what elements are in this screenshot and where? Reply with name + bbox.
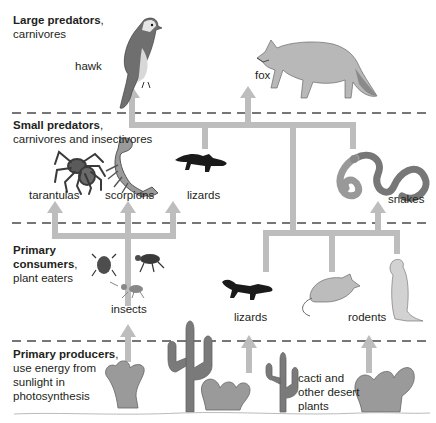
level-label-large-predators: Large predators, carnivores (13, 13, 104, 41)
label-snakes: snakes (388, 193, 424, 206)
level-label-primary-producers: Primary producers, use energy from sunli… (13, 347, 118, 403)
tarantula-illustration (55, 152, 105, 194)
label-rodents: rodents (348, 311, 386, 324)
lizard-consumer-illustration (222, 280, 273, 300)
label-insects: insects (111, 303, 147, 316)
label-tarantulas: tarantulas (29, 189, 80, 202)
food-web-diagram: Large predators, carnivores Small predat… (0, 0, 436, 423)
level-desc: carnivores (13, 28, 66, 40)
label-desert-plants: cacti and other desert plants (298, 371, 359, 413)
lizard-small-predator-illustration (175, 154, 227, 172)
level-title-line2: consumers (13, 258, 74, 270)
label-lizards-consumers: lizards (234, 311, 267, 324)
level-label-small-predators: Small predators, carnivores and insectiv… (13, 118, 152, 146)
level-title: Primary producers (13, 348, 115, 360)
level-label-primary-consumers: Primary consumers, plant eaters (13, 243, 78, 285)
label-lizards-small-predators: lizards (187, 189, 220, 202)
fox-illustration (257, 40, 377, 98)
snake-illustration (340, 155, 426, 198)
ground-line (14, 413, 430, 415)
level-dividers (12, 113, 430, 341)
label-scorpions: scorpions (105, 189, 154, 202)
level-title: Small predators (13, 119, 100, 131)
ground-squirrel-illustration (390, 259, 423, 321)
label-fox: fox (255, 69, 270, 82)
label-hawk: hawk (75, 60, 102, 73)
level-title-line1: Primary (13, 244, 56, 256)
hawk-illustration (120, 18, 162, 108)
rodent-illustration (303, 274, 360, 316)
level-desc-line3: photosynthesis (13, 390, 90, 402)
level-desc-line2: sunlight in (13, 376, 65, 388)
level-desc-line1: use energy from (13, 362, 96, 374)
level-desc: plant eaters (13, 272, 73, 284)
level-desc: carnivores and insectivores (13, 133, 152, 145)
level-title: Large predators (13, 14, 101, 26)
